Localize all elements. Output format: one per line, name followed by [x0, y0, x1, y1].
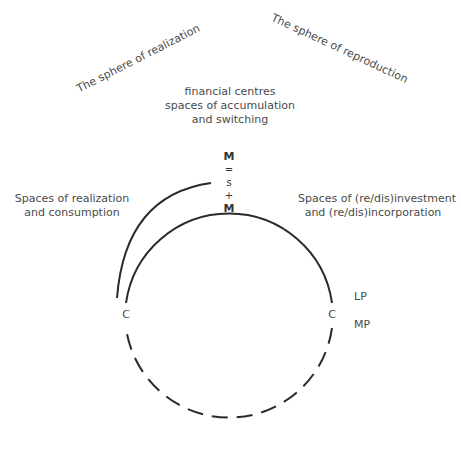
realization-consumption-label: Spaces of realization and consumption [12, 192, 132, 220]
means-of-production-label: MP [354, 318, 370, 332]
labour-power-label: LP [354, 290, 367, 304]
money-formula: M = s + M [216, 150, 242, 215]
formula-equals: = [216, 163, 242, 176]
commodity-node-left: C [119, 308, 133, 322]
realization-line2: and consumption [12, 206, 132, 220]
realization-line1: Spaces of realization [12, 192, 132, 206]
formula-s: s [216, 176, 242, 189]
circuit-solid-arc [126, 213, 332, 303]
investment-line1: Spaces of (re/dis)investment [298, 192, 448, 206]
financial-centres-line3: and switching [150, 113, 310, 127]
formula-plus: + [216, 189, 242, 202]
investment-incorporation-label: Spaces of (re/dis)investment and (re/dis… [298, 192, 448, 220]
financial-centres-line2: spaces of accumulation [150, 99, 310, 113]
formula-m-top: M [216, 150, 242, 163]
formula-m-bottom: M [216, 202, 242, 215]
financial-centres-label: financial centres spaces of accumulation… [150, 85, 310, 127]
circuit-dashed-arc [126, 328, 332, 418]
investment-line2: and (re/dis)incorporation [298, 206, 448, 220]
commodity-node-right: C [325, 308, 339, 322]
financial-centres-line1: financial centres [150, 85, 310, 99]
